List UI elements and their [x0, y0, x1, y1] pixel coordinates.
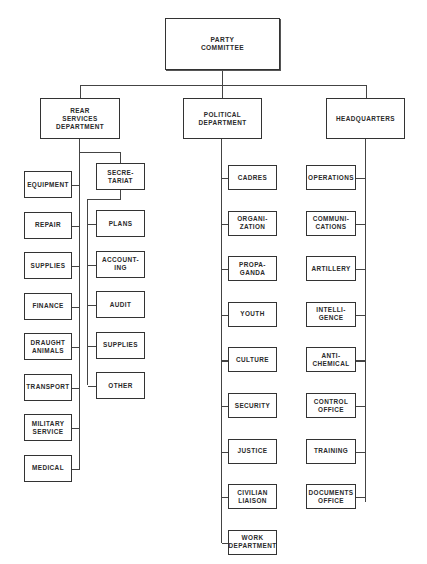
political-unit-connector	[222, 269, 228, 270]
hq-unit-connector	[356, 406, 366, 407]
political-unit-box: WORK DEPARTMENT	[228, 530, 277, 555]
rear-unit-connector	[72, 388, 80, 389]
secretariat-unit-box: SUPPLIES	[96, 332, 145, 359]
political-department-box: POLITICAL DEPARTMENT	[183, 98, 262, 139]
rear-unit-box: TRANSPORT	[24, 374, 72, 401]
hq-unit-box: INTELLI- GENCE	[306, 302, 356, 327]
hq-unit-box: ARTILLERY	[306, 256, 356, 281]
secretariat-unit-connector	[88, 305, 96, 306]
secretariat-branch	[80, 152, 120, 153]
political-trunk	[221, 138, 222, 543]
rear-trunk	[79, 138, 80, 470]
hq-unit-connector	[356, 360, 366, 361]
rear-unit-connector	[72, 469, 80, 470]
secretariat-up	[120, 152, 121, 163]
secretariat-trunk	[87, 199, 88, 385]
hq-unit-box: DOCUMENTS OFFICE	[306, 484, 356, 509]
secretariat-unit-box: AUDIT	[96, 291, 145, 318]
hq-unit-box: ANTI- CHEMICAL	[306, 347, 356, 372]
secretariat-unit-box: ACCOUNT- ING	[96, 251, 145, 278]
political-unit-box: CIVILIAN LIAISON	[228, 484, 277, 509]
secretariat-unit-box: OTHER	[96, 372, 145, 399]
secretariat-box: SECRE- TARIAT	[96, 163, 145, 190]
political-unit-connector	[222, 360, 228, 361]
political-unit-connector	[222, 178, 228, 179]
secretariat-down	[120, 190, 121, 199]
connector-political-up	[222, 85, 223, 98]
hq-unit-connector	[356, 269, 366, 270]
rear-unit-box: SUPPLIES	[24, 252, 72, 279]
political-unit-connector	[222, 224, 228, 225]
rear-unit-connector	[72, 226, 80, 227]
connector-hq-up	[366, 85, 367, 98]
political-unit-connector	[222, 543, 228, 544]
rear-unit-connector	[72, 266, 80, 267]
political-unit-connector	[222, 497, 228, 498]
connector-top-bar	[80, 85, 367, 86]
political-unit-box: CULTURE	[228, 347, 277, 372]
secretariat-unit-box: PLANS	[96, 210, 145, 237]
political-unit-box: CADRES	[228, 165, 277, 190]
rear-unit-box: DRAUGHT ANIMALS	[24, 333, 72, 360]
rear-unit-box: FINANCE	[24, 293, 72, 320]
rear-services-box: REAR SERVICES DEPARTMENT	[40, 98, 120, 139]
political-unit-box: PROPA- GANDA	[228, 256, 277, 281]
rear-unit-connector	[72, 428, 80, 429]
political-unit-box: ORGANI- ZATION	[228, 211, 277, 236]
connector-root-down	[222, 70, 223, 86]
hq-unit-connector	[356, 178, 366, 179]
rear-unit-connector	[72, 185, 80, 186]
hq-unit-box: CONTROL OFFICE	[306, 393, 356, 418]
political-unit-connector	[222, 452, 228, 453]
connector-rear-up	[80, 85, 81, 98]
secretariat-unit-connector	[88, 224, 96, 225]
rear-unit-box: MEDICAL	[24, 455, 72, 482]
hq-unit-connector	[356, 315, 366, 316]
rear-unit-connector	[72, 307, 80, 308]
secretariat-jog	[88, 199, 121, 200]
political-unit-box: YOUTH	[228, 302, 277, 327]
hq-unit-box: OPERATIONS	[306, 165, 356, 190]
hq-unit-box: COMMUNI- CATIONS	[306, 211, 356, 236]
hq-unit-connector	[356, 497, 366, 498]
hq-unit-connector	[356, 452, 366, 453]
political-unit-box: JUSTICE	[228, 439, 277, 464]
rear-unit-box: MILITARY SERVICE	[24, 414, 72, 441]
rear-unit-box: EQUIPMENT	[24, 171, 72, 198]
secretariat-unit-connector	[88, 386, 96, 387]
secretariat-unit-connector	[88, 346, 96, 347]
political-unit-connector	[222, 315, 228, 316]
political-unit-connector	[222, 406, 228, 407]
hq-unit-connector	[356, 224, 366, 225]
secretariat-unit-connector	[88, 265, 96, 266]
rear-unit-box: REPAIR	[24, 212, 72, 239]
party-committee-box: PARTY COMMITTEE	[165, 18, 280, 70]
headquarters-box: HEADQUARTERS	[326, 98, 405, 139]
rear-unit-connector	[72, 347, 80, 348]
hq-unit-box: TRAINING	[306, 439, 356, 464]
political-unit-box: SECURITY	[228, 393, 277, 418]
hq-trunk	[365, 138, 366, 502]
